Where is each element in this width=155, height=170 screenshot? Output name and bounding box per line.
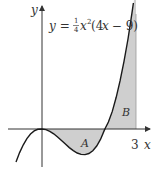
x-axis-label: x (144, 138, 151, 152)
y-axis-label: y (30, 3, 38, 17)
region-b-label: B (121, 106, 130, 119)
region-a-label: A (80, 137, 89, 150)
svg-text:− 9): − 9) (108, 19, 138, 33)
svg-text:=: = (56, 19, 74, 33)
svg-text:4: 4 (74, 26, 79, 34)
svg-text:y: y (48, 19, 56, 33)
svg-text:x: x (80, 19, 87, 33)
cubic-graph: y x 3 A B y = 1 4 x 2 (4 x − 9) (0, 0, 155, 170)
tick-label-3: 3 (131, 138, 139, 152)
svg-text:1: 1 (74, 17, 78, 25)
curve-equation: y = 1 4 x 2 (4 x − 9) (48, 17, 138, 34)
